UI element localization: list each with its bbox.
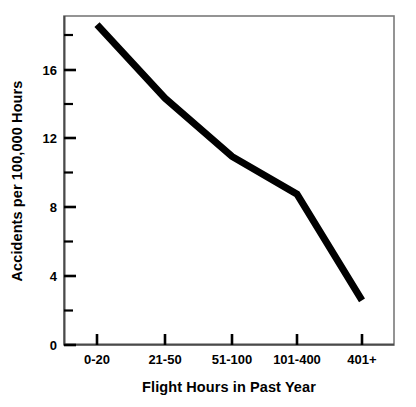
- y-tick-label-16: 16: [43, 63, 57, 78]
- y-tick-label-8: 8: [50, 200, 57, 215]
- x-tick-label-0-20: 0-20: [84, 352, 110, 367]
- y-axis-title: Accidents per 100,000 Hours: [9, 81, 25, 282]
- y-tick-label-0: 0: [50, 338, 57, 353]
- accidents-vs-flight-hours-line-chart: 0 4 8 12 16 0-20 21-50 51-100 101-400 40…: [0, 0, 416, 407]
- x-tick-label-401-plus: 401+: [347, 352, 377, 367]
- chart-container: 0 4 8 12 16 0-20 21-50 51-100 101-400 40…: [0, 0, 416, 407]
- x-axis-title: Flight Hours in Past Year: [142, 379, 316, 395]
- x-tick-label-21-50: 21-50: [148, 352, 181, 367]
- y-tick-label-12: 12: [43, 131, 57, 146]
- x-tick-label-51-100: 51-100: [212, 352, 252, 367]
- plot-area-background: [64, 16, 394, 345]
- x-tick-label-101-400: 101-400: [273, 352, 321, 367]
- y-tick-label-4: 4: [50, 269, 58, 284]
